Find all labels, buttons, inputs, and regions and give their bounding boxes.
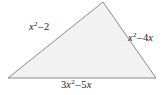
geometry-figure: x2–2 x2–4x 3x2–5x xyxy=(0,0,163,95)
right-label-term-variable: x xyxy=(148,32,153,43)
bottom-label-term-variable: x xyxy=(87,79,92,90)
left-label-term: 2 xyxy=(44,21,49,32)
bottom-side-label: 3x2–5x xyxy=(61,80,91,91)
left-side-label: x2–2 xyxy=(29,22,49,33)
right-side-label: x2–4x xyxy=(128,33,153,44)
